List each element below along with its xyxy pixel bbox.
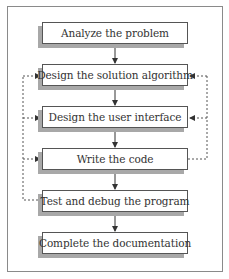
right-feedback-lines [188, 76, 207, 159]
step-label: Write the code [42, 148, 188, 170]
step-label: Design the solution algorithm [42, 64, 188, 86]
step-analyze: Analyze the problem [42, 22, 188, 44]
step-design-algorithm: Design the solution algorithm [42, 64, 188, 86]
left-feedback-lines [23, 76, 42, 200]
step-label: Analyze the problem [42, 22, 188, 44]
step-documentation: Complete the documentation [42, 232, 188, 254]
step-design-ui: Design the user interface [42, 106, 188, 128]
step-test-debug: Test and debug the program [42, 190, 188, 212]
step-label: Complete the documentation [42, 232, 188, 254]
step-write-code: Write the code [42, 148, 188, 170]
step-label: Design the user interface [42, 106, 188, 128]
step-label: Test and debug the program [42, 190, 188, 212]
